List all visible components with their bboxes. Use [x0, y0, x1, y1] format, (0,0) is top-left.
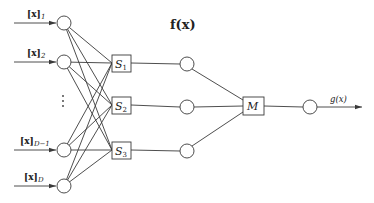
s-to-hidden-edges	[131, 63, 180, 151]
hidden-to-m-edges	[192, 69, 243, 146]
hidden-node-1	[180, 57, 194, 71]
m-to-output-edge	[264, 106, 303, 107]
input-label-d-minus-1: [x]D−1	[20, 136, 50, 148]
input-label-1: [x]1	[27, 9, 45, 21]
output-node	[303, 100, 317, 114]
input-node-1	[57, 16, 71, 30]
merge-box-label: M	[246, 100, 259, 113]
input-label-d: [x]D	[24, 172, 44, 184]
input-node-d	[57, 179, 71, 193]
input-node-d-minus-1	[57, 143, 71, 157]
input-label-2: [x]2	[27, 48, 46, 60]
input-labels: [x]1 [x]2 [x]D−1 [x]D	[20, 9, 50, 184]
hidden-nodes	[180, 57, 194, 158]
hidden-node-2	[180, 100, 194, 114]
diagram-title: f(x)	[170, 17, 196, 32]
input-node-2	[57, 55, 71, 69]
hidden-node-3	[180, 144, 194, 158]
ellipsis-dots	[62, 95, 64, 107]
network-diagram: f(x) [x]1 [x]2 [x]D−1 [x]D	[0, 0, 374, 203]
input-to-s-edges	[64, 23, 112, 186]
input-nodes	[57, 16, 71, 193]
output-label: g(x)	[330, 94, 347, 104]
s-boxes: S1 S2 S3	[112, 55, 131, 159]
